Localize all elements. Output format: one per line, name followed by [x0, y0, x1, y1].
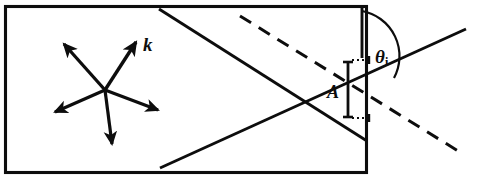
lattice-plane-descending-lower [245, 150, 367, 174]
spacing-label-A: A [327, 83, 339, 101]
arrow-upper-right-k [105, 42, 136, 90]
angle-label-symbol: θ [375, 46, 385, 67]
dashed-construction-line [240, 16, 463, 154]
wavevector-star [55, 42, 158, 144]
arrow-lower-left [55, 90, 105, 112]
ray-ascending [160, 29, 466, 168]
angle-label-subscript: i [385, 55, 388, 69]
arrow-lower-right [105, 90, 158, 110]
crystal-slab-outline [6, 7, 367, 173]
figure-canvas [0, 0, 477, 181]
angle-label-theta-i: θi [375, 47, 388, 68]
arrow-upper-left [64, 44, 105, 90]
wavevector-label-k: k [143, 35, 153, 54]
bragg-diffraction-figure: k A θi [0, 0, 477, 181]
arrow-down [105, 90, 112, 144]
